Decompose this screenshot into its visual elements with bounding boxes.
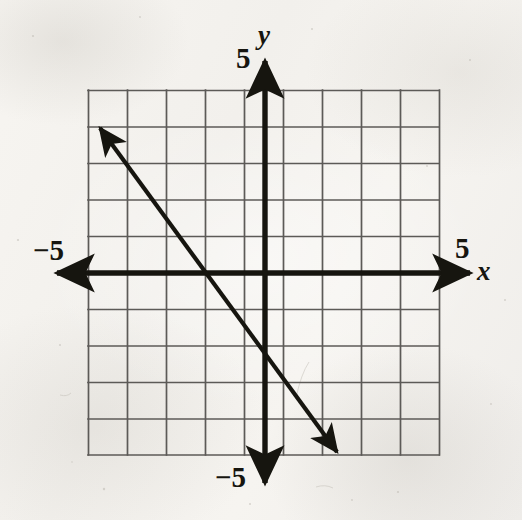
x-axis-name-label: x bbox=[477, 258, 491, 285]
figure-canvas: 5 y −5 5 x −5 bbox=[0, 0, 522, 520]
coordinate-plane bbox=[0, 0, 522, 520]
x-axis-min-label: −5 bbox=[33, 236, 64, 265]
y-axis-max-label: 5 bbox=[236, 44, 251, 73]
x-axis-max-label: 5 bbox=[455, 234, 470, 263]
y-axis-min-label: −5 bbox=[215, 463, 246, 492]
plotted-line bbox=[100, 128, 337, 452]
y-axis-name-label: y bbox=[258, 22, 270, 49]
